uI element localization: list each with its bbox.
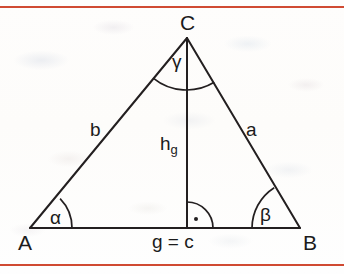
side-label-a: a — [246, 120, 257, 139]
angle-alpha-arc — [60, 199, 72, 228]
figure-canvas: A B C b a g = c hg α β γ — [0, 0, 344, 274]
altitude-label: hg — [160, 134, 178, 153]
vertex-label-c: C — [180, 12, 195, 33]
side-a-line — [187, 38, 300, 228]
right-angle-arc — [187, 202, 213, 228]
side-label-b: b — [90, 120, 101, 139]
altitude-label-subscript: g — [171, 142, 178, 157]
bottom-rule — [0, 264, 344, 266]
angle-label-gamma: γ — [172, 52, 182, 71]
angle-label-alpha: α — [50, 208, 61, 227]
right-angle-dot — [194, 217, 198, 221]
base-label: g = c — [152, 232, 194, 251]
angle-label-beta: β — [260, 205, 271, 224]
angle-gamma-arc — [153, 78, 214, 90]
altitude-label-base: h — [160, 133, 171, 154]
vertex-label-b: B — [303, 232, 317, 253]
vertex-label-a: A — [18, 232, 32, 253]
